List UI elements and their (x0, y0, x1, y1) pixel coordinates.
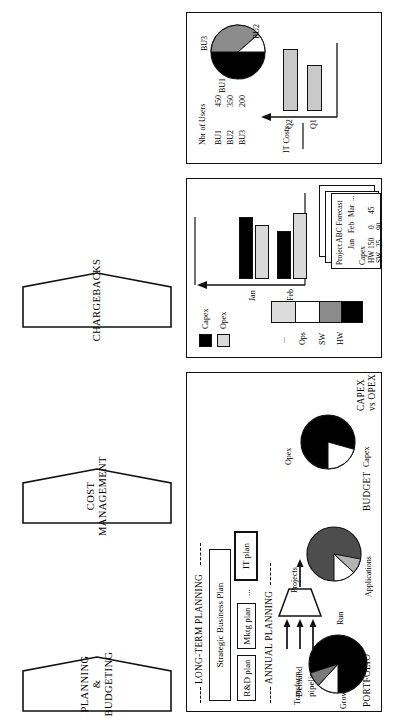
forecast-col-jan: Jan (348, 239, 355, 249)
bar-q1 (307, 65, 322, 111)
budget-pie (305, 525, 367, 583)
chargebacks-pie (209, 23, 271, 81)
header-planning-budgeting: PLANNING & BUDGETING (22, 656, 172, 712)
stack-label-hw: HW (337, 332, 345, 345)
stack-seg-hw (342, 302, 362, 322)
bar-q2 (283, 49, 298, 111)
forecast-row-hw-mar: 45 (368, 207, 375, 214)
panel-cost-management: Capex Opex Jan Feb HW SW Ops ... (186, 178, 382, 358)
stack-seg-ops (296, 302, 320, 322)
pie-label-bu2: BU2 (253, 24, 261, 39)
stacked-bar (271, 301, 363, 323)
bar-feb-capex (277, 231, 291, 279)
budget-caption: BUDGET (363, 471, 372, 511)
bar-label-q2: Q2 (286, 119, 294, 129)
bar-feb-opex (293, 213, 307, 279)
bar-category-jan: Jan (249, 290, 257, 301)
portfolio-pie-label-grow: Grow (340, 691, 348, 709)
header-cost-line1: COST (85, 482, 97, 510)
stack-seg-other (272, 302, 296, 322)
forecast-row-sw-feb: 90 (376, 223, 383, 230)
header-cost-management: COST MANAGEMENT (22, 468, 172, 524)
figure-canvas: PLANNING & BUDGETING LONG-TERM PLANNING … (0, 0, 403, 724)
capex-vs-opex-caption-l2: vs OPEX (368, 374, 377, 411)
pie-label-bu1: BU1 (219, 78, 227, 93)
header-planning-line2: BUDGETING (103, 652, 115, 717)
bar-category-feb: Feb (287, 289, 295, 301)
pie-label-bu3: BU3 (201, 36, 209, 51)
stack-label-other: ... (279, 337, 287, 343)
bar-jan-capex (239, 217, 253, 279)
bar-label-q1: Q1 (310, 119, 318, 129)
header-planning-line1: PLANNING & (79, 656, 103, 713)
forecast-row-sw-jan: 25 (376, 240, 383, 247)
forecast-group-capex: Capex (359, 246, 366, 265)
forecast-row-sw-label: SW (376, 252, 383, 263)
portfolio-pie-label-transform: Transform (294, 672, 302, 705)
panel-planning-budgeting: LONG-TERM PLANNING Strategic Business Pl… (186, 372, 382, 712)
header-cost-line2: MANAGEMENT (97, 456, 109, 536)
forecast-col-feb: Feb (348, 222, 355, 233)
capex-opex-label-opex: Opex (285, 448, 293, 465)
forecast-title: Project ABC Forecast (336, 201, 343, 265)
forecast-col-mar: Mar (348, 205, 355, 217)
panel-chargebacks: Nbr of Users BU1 450 BU2 350 BU3 200 IT … (186, 12, 382, 164)
rotated-figure: PLANNING & BUDGETING LONG-TERM PLANNING … (0, 0, 403, 724)
forecast-col-more: ... (348, 195, 355, 201)
portfolio-pie-label-run: Run (337, 612, 345, 625)
stack-seg-sw (320, 302, 342, 322)
budget-pie-label-applications: Applications (365, 556, 373, 597)
portfolio-caption: PORTFOLIO (363, 654, 372, 707)
stack-label-ops: Ops (299, 332, 307, 345)
capex-opex-pie (299, 413, 361, 471)
budget-pie-label-projects: Projects (291, 567, 299, 593)
stack-label-sw: SW (319, 333, 327, 345)
capex-vs-opex-caption-l1: CAPEX (357, 379, 366, 411)
header-chargebacks: CHARGEBACKS (22, 272, 172, 328)
bar-jan-opex (255, 225, 269, 279)
capex-opex-label-capex: Capex (363, 447, 371, 467)
header-chargebacks-line1: CHARGEBACKS (91, 259, 103, 342)
